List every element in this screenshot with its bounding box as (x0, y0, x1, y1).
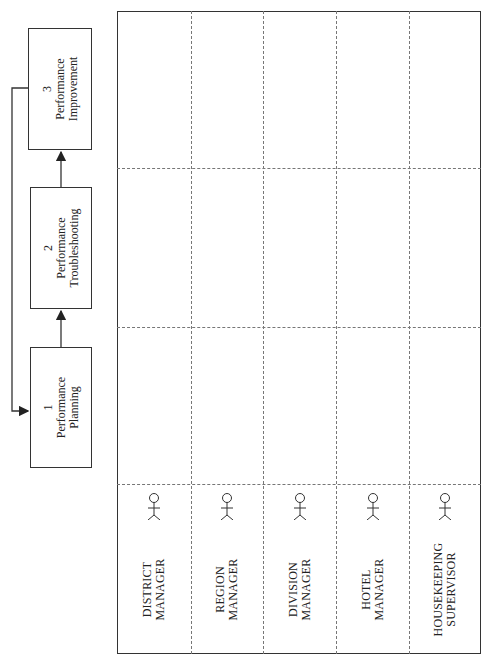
step-label: Performance (55, 217, 68, 278)
role-district-manager: DISTRICTMANAGER (117, 485, 191, 654)
actor-icon (365, 485, 381, 525)
column-divider (117, 327, 481, 328)
role-region-manager: REGIONMANAGER (191, 485, 263, 654)
actor-icon (292, 485, 308, 525)
role-label: HOUSEKEEPINGSUPERVISOR (432, 525, 458, 654)
step-number: 2 (42, 245, 55, 251)
actor-icon (146, 485, 162, 525)
step-label: Improvement (67, 57, 80, 122)
step-label: Performance (54, 58, 67, 119)
role-label: REGIONMANAGER (214, 525, 240, 654)
step-number: 1 (42, 405, 55, 411)
step-label: Troubleshooting (68, 209, 81, 288)
step-number: 3 (41, 86, 54, 92)
role-label: DIVISIONMANAGER (287, 525, 313, 654)
role-division-manager: DIVISIONMANAGER (263, 485, 336, 654)
actor-icon (437, 485, 453, 525)
role-label: HOTELMANAGER (360, 525, 386, 654)
role-hotel-manager: HOTELMANAGER (336, 485, 409, 654)
role-label: DISTRICTMANAGER (141, 525, 167, 654)
step-label: Performance (55, 377, 68, 438)
step-box-performance-planning: 1 Performance Planning (30, 347, 92, 468)
rotated-diagram: 1 Performance Planning 2 Performance Tro… (0, 0, 495, 672)
column-divider (117, 168, 481, 169)
step-box-performance-improvement: 3 Performance Improvement (28, 28, 92, 150)
step-label: Planning (68, 386, 81, 429)
step-box-performance-troubleshooting: 2 Performance Troubleshooting (30, 187, 92, 309)
role-housekeeping-supervisor: HOUSEKEEPINGSUPERVISOR (409, 485, 481, 654)
actor-icon (219, 485, 235, 525)
